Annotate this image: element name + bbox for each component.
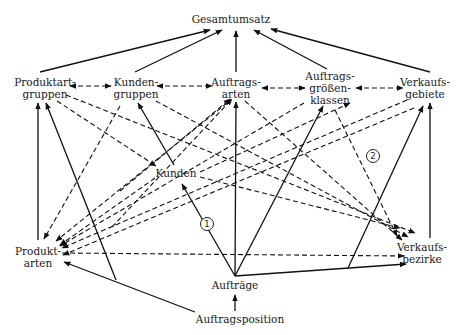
- circled-number-badge: 1: [200, 217, 214, 231]
- node-label-line: Aufträge: [212, 279, 259, 291]
- node-produktarten: Produkt-arten: [15, 245, 61, 269]
- node-kundengruppen: Kunden-gruppen: [114, 76, 159, 100]
- node-verkaufsgebiete: Verkaufs-gebiete: [400, 76, 450, 100]
- dashed-arrow: [60, 178, 155, 245]
- node-label-line: gebiete: [400, 88, 450, 100]
- node-kunden: Kunden: [156, 167, 197, 179]
- node-label-line: Auftragsposition: [196, 313, 284, 325]
- dashed-arrow: [62, 253, 404, 256]
- node-label-line: klassen: [305, 94, 354, 106]
- node-verkaufsbezirke: Verkaufs-bezirke: [397, 241, 447, 265]
- solid-arrow: [271, 29, 430, 72]
- node-auftragsposition: Auftragsposition: [196, 313, 284, 325]
- node-label-line: arten: [15, 257, 61, 269]
- dashed-arrow: [112, 99, 232, 227]
- circled-number-badge: 2: [366, 149, 380, 163]
- node-gesamtumsatz: Gesamtumsatz: [192, 13, 271, 25]
- node-label-line: Kunden-: [114, 76, 159, 88]
- node-label-line: gruppen: [114, 88, 159, 100]
- node-label-line: Produktart-: [14, 76, 76, 88]
- dashed-arrow: [245, 101, 402, 240]
- node-produktartgruppen: Produktart-gruppen: [14, 76, 76, 100]
- node-label-line: Kunden: [156, 167, 197, 179]
- node-label-line: Auftrags-: [305, 70, 354, 82]
- solid-arrow: [64, 262, 195, 312]
- solid-arrow: [40, 30, 210, 72]
- node-label-line: bezirke: [397, 253, 447, 265]
- dashed-arrow: [63, 108, 414, 255]
- node-auftragsarten: Auftrags-arten: [211, 76, 260, 100]
- solid-arrow: [235, 264, 406, 276]
- node-label-line: Verkaufs-: [397, 241, 447, 253]
- node-label-line: größen-: [305, 82, 354, 94]
- node-auftragsgroessenklassen: Auftrags-größen-klassen: [305, 70, 354, 106]
- solid-arrow: [254, 30, 327, 69]
- node-label-line: Verkaufs-: [400, 76, 450, 88]
- dashed-arrow: [335, 110, 397, 236]
- node-label-line: gruppen: [14, 88, 76, 100]
- node-label-line: Auftrags-: [211, 76, 260, 88]
- solid-arrow: [235, 106, 323, 276]
- solid-arrow: [135, 30, 222, 72]
- node-auftraege: Aufträge: [212, 279, 259, 291]
- solid-arrow: [138, 103, 174, 165]
- solid-arrow: [235, 102, 236, 276]
- node-label-line: Produkt-: [15, 245, 61, 257]
- dashed-edges: [44, 86, 415, 256]
- solid-edges: [38, 29, 430, 312]
- node-label-line: arten: [211, 88, 260, 100]
- node-label-line: Gesamtumsatz: [192, 13, 271, 25]
- dashed-arrow: [62, 100, 407, 248]
